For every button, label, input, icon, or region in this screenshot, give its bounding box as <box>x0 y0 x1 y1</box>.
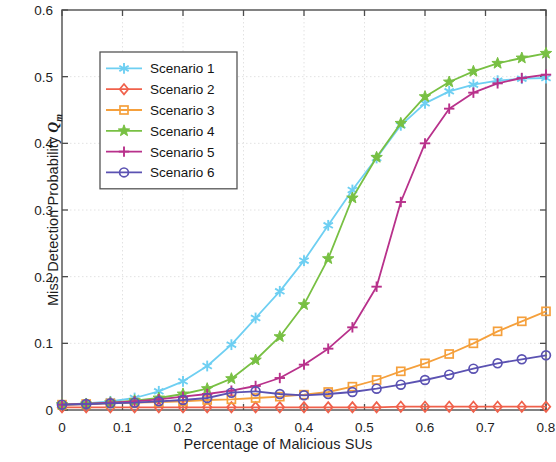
legend-label-6: Scenario 6 <box>150 165 215 180</box>
svg-text:0.4: 0.4 <box>295 420 314 435</box>
x-axis-label: Percentage of Malicious SUs <box>0 436 556 452</box>
figure-container: 00.10.20.30.40.50.60.70.800.10.20.30.40.… <box>0 0 556 462</box>
legend-label-1: Scenario 1 <box>150 61 215 76</box>
svg-text:0: 0 <box>58 420 66 435</box>
svg-text:0.5: 0.5 <box>355 420 374 435</box>
chart-legend: Scenario 1Scenario 2Scenario 3Scenario 4… <box>100 52 237 189</box>
legend-label-2: Scenario 2 <box>150 82 215 97</box>
svg-text:0.1: 0.1 <box>34 336 53 351</box>
svg-text:0.6: 0.6 <box>34 3 53 18</box>
svg-text:0.7: 0.7 <box>476 420 495 435</box>
svg-text:0.3: 0.3 <box>234 420 253 435</box>
legend-label-5: Scenario 5 <box>150 145 215 160</box>
svg-text:0.6: 0.6 <box>416 420 435 435</box>
legend-label-4: Scenario 4 <box>150 124 215 139</box>
svg-text:0: 0 <box>45 403 53 418</box>
line-chart: 00.10.20.30.40.50.60.70.800.10.20.30.40.… <box>0 0 556 462</box>
svg-text:0.2: 0.2 <box>34 270 53 285</box>
svg-text:0.8: 0.8 <box>537 420 556 435</box>
svg-text:0.3: 0.3 <box>34 203 53 218</box>
svg-text:0.4: 0.4 <box>34 136 53 151</box>
svg-text:0.2: 0.2 <box>174 420 193 435</box>
legend-label-3: Scenario 3 <box>150 103 215 118</box>
svg-text:0.1: 0.1 <box>113 420 132 435</box>
svg-text:0.5: 0.5 <box>34 70 53 85</box>
